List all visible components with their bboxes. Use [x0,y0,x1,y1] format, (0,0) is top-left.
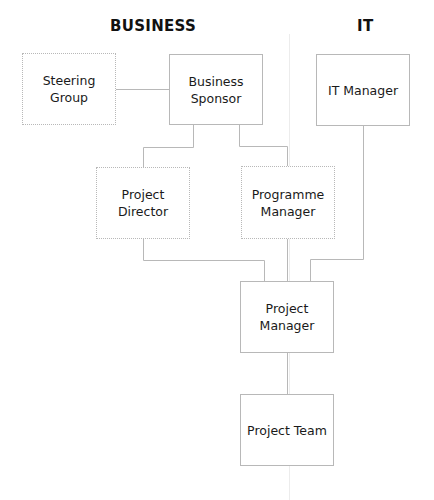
node-label: Project Manager [241,300,333,334]
node-steering-group: Steering Group [22,53,116,125]
edge-sponsor-to-director [144,125,194,167]
node-label: IT Manager [322,82,404,99]
edge-director-to-pm [144,239,265,281]
node-project-director: Project Director [96,167,190,239]
node-label: Business Sponsor [170,73,262,107]
edge-sponsor-to-programme [240,125,288,166]
node-label: Programme Manager [242,186,334,220]
node-label: Steering Group [23,72,115,106]
node-label: Project Team [241,422,333,439]
node-it-manager: IT Manager [316,54,410,126]
node-label: Project Director [97,186,189,220]
node-project-manager: Project Manager [240,281,334,353]
node-business-sponsor: Business Sponsor [169,54,263,125]
node-programme-manager: Programme Manager [241,166,335,239]
node-project-team: Project Team [240,394,334,466]
